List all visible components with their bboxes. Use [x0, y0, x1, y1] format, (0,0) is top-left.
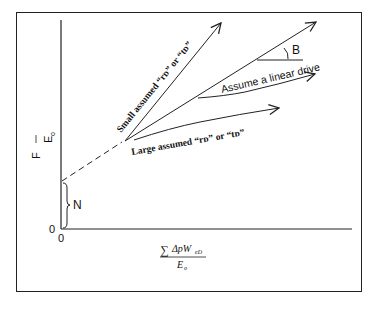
x-label-numerator: ΔpW: [171, 243, 193, 254]
dashed-extrapolation-line: [62, 142, 122, 181]
angle-arc-icon: [284, 48, 288, 59]
small-assumed-arrow: [125, 23, 221, 141]
origin-y-label: 0: [49, 223, 55, 235]
x-label-denominator: E: [176, 259, 183, 270]
angle-label: B: [292, 43, 300, 57]
x-axis-label: ∑ ΔpW eD E o: [160, 243, 206, 271]
linear-drive-label: Assume a linear drive: [220, 61, 321, 95]
large-assumed-label: Large assumed “rᴅ” or “tᴅ”: [131, 127, 246, 157]
intercept-brace-icon: [63, 183, 70, 228]
x-label-denominator-sub: o: [184, 265, 187, 271]
intercept-label: N: [73, 198, 82, 212]
havlena-odeh-diagram: 0 0 N B Small assumed “rᴅ” or “tᴅ” Assum…: [0, 0, 379, 313]
small-assumed-label: Small assumed “rᴅ” or “tᴅ”: [115, 39, 194, 134]
y-label-denominator-sub: o: [49, 132, 56, 136]
y-label-numerator: F: [30, 152, 42, 159]
x-label-numerator-sub: eD: [195, 249, 203, 255]
origin-x-label: 0: [58, 232, 64, 244]
x-label-sum: ∑: [160, 243, 169, 257]
y-axis-label: F E o: [30, 132, 56, 159]
